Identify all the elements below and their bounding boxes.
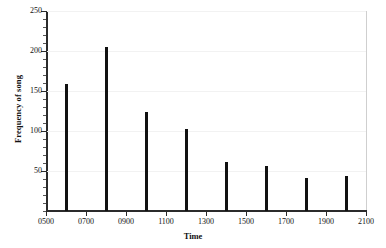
gridline <box>47 51 366 52</box>
y-axis-minor-tick <box>43 163 46 164</box>
y-axis-minor-tick <box>43 27 46 28</box>
gridline <box>47 171 366 172</box>
bar <box>225 162 228 211</box>
x-axis-tick <box>46 211 47 216</box>
x-axis-tick-label: 0500 <box>29 218 63 226</box>
y-axis-minor-tick <box>43 43 46 44</box>
y-axis-minor-tick <box>43 187 46 188</box>
gridline <box>47 131 366 132</box>
plot-area <box>46 11 367 212</box>
gridline <box>47 11 366 12</box>
bar <box>105 47 108 211</box>
bar <box>145 112 148 211</box>
x-axis-tick <box>246 211 247 216</box>
y-axis-minor-tick <box>43 195 46 196</box>
y-axis-minor-tick <box>43 107 46 108</box>
y-axis-tick-label: 250 <box>12 7 42 15</box>
y-axis-line <box>46 11 48 211</box>
x-axis-tick-label: 2100 <box>349 218 383 226</box>
y-axis-minor-tick <box>43 123 46 124</box>
x-axis-tick <box>86 211 87 216</box>
x-axis-tick <box>286 211 287 216</box>
y-axis-tick-label: 200 <box>12 47 42 55</box>
x-axis-tick-label: 1700 <box>269 218 303 226</box>
y-axis-tick-label: 100 <box>12 127 42 135</box>
x-axis-tick <box>206 211 207 216</box>
y-axis-minor-tick <box>43 83 46 84</box>
y-axis-minor-tick <box>43 59 46 60</box>
y-axis-minor-tick <box>43 203 46 204</box>
x-axis-tick-label: 0700 <box>69 218 103 226</box>
bar <box>185 129 188 211</box>
x-axis-tick-label: 1900 <box>309 218 343 226</box>
y-axis-minor-tick <box>43 19 46 20</box>
y-axis-minor-tick <box>43 115 46 116</box>
x-axis-tick-label: 1100 <box>149 218 183 226</box>
y-axis-tick-label: 50 <box>12 167 42 175</box>
chart-figure: Frequency of song 50100150200250 0500070… <box>0 0 386 248</box>
x-axis-tick-label: 1300 <box>189 218 223 226</box>
bar <box>345 176 348 211</box>
y-axis-minor-tick <box>43 75 46 76</box>
y-axis-minor-tick <box>43 35 46 36</box>
bar <box>65 84 68 211</box>
x-axis-tick-label: 0900 <box>109 218 143 226</box>
x-axis-tick <box>326 211 327 216</box>
y-axis-minor-tick <box>43 147 46 148</box>
y-axis-minor-tick <box>43 179 46 180</box>
x-axis-tick <box>166 211 167 216</box>
y-axis-minor-tick <box>43 99 46 100</box>
x-axis-title: Time <box>0 231 386 241</box>
gridline <box>47 91 366 92</box>
y-axis-tick-label: 150 <box>12 87 42 95</box>
y-axis-minor-tick <box>43 155 46 156</box>
x-axis-tick-label: 1500 <box>229 218 263 226</box>
y-axis-title: Frequency of song <box>13 39 23 179</box>
x-axis-tick <box>126 211 127 216</box>
y-axis-minor-tick <box>43 139 46 140</box>
x-axis-tick <box>366 211 367 216</box>
y-axis-minor-tick <box>43 67 46 68</box>
bar <box>265 166 268 211</box>
bar <box>305 178 308 211</box>
